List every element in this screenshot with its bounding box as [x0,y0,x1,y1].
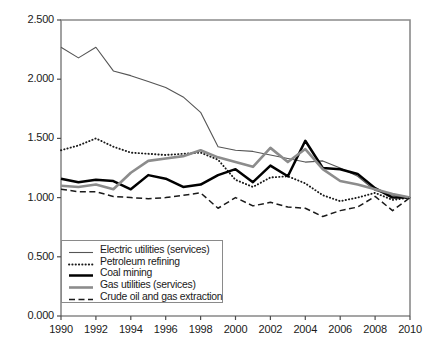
legend-item-label: Electric utilities (services) [100,244,209,255]
y-axis-tick-label: 2.500 [8,13,54,25]
legend-item: Petroleum refining [68,256,222,268]
chart-legend: Electric utilities (services)Petroleum r… [61,240,223,303]
legend-item: Crude oil and gas extraction [68,290,222,302]
legend-line-key-icon [68,267,94,278]
legend-line-key-icon [68,244,94,255]
legend-item-label: Petroleum refining [100,256,180,267]
y-axis-tick-label: 1.000 [8,191,54,203]
legend-item-label: Gas utilities (services) [100,279,196,290]
legend-item-label: Crude oil and gas extraction [100,291,222,302]
line-chart-figure: 0.0000.5001.0001.5002.0002.500 199019921… [0,0,428,345]
y-axis-tick-label: 0.000 [8,309,54,321]
x-axis-tick-label: 2010 [390,323,428,335]
y-axis-tick-label: 2.000 [8,72,54,84]
legend-item: Electric utilities (services) [68,244,222,256]
legend-line-key-icon [68,291,94,302]
legend-line-key-icon [68,256,94,267]
legend-item: Coal mining [68,267,222,279]
legend-item-label: Coal mining [100,267,152,278]
legend-line-key-icon [68,279,94,290]
y-axis-tick-label: 0.500 [8,250,54,262]
y-axis-tick-label: 1.500 [8,131,54,143]
legend-item: Gas utilities (services) [68,279,222,291]
series-line-5 [61,189,410,216]
